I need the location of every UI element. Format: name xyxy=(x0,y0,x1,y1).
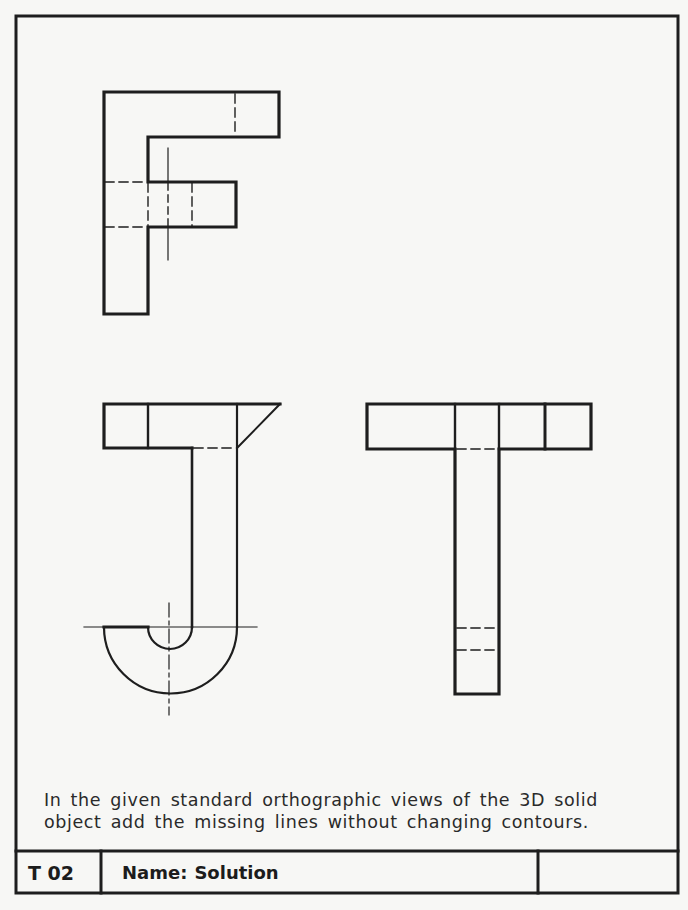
t-view xyxy=(367,404,591,694)
sheet-border xyxy=(16,16,678,893)
sheet-code: T 02 xyxy=(28,862,74,884)
j-chamfer xyxy=(237,404,280,448)
name-label: Name: xyxy=(122,862,187,883)
f-hidden-lines xyxy=(105,94,235,227)
j-view xyxy=(84,404,280,715)
j-center-lines xyxy=(84,603,257,715)
drawing-sheet xyxy=(0,0,688,910)
j-top-bar xyxy=(104,404,280,448)
title-block-extra-cell xyxy=(540,852,676,892)
name-value: Solution xyxy=(194,862,278,883)
j-inner-arc xyxy=(148,627,192,649)
instructions-text: In the given standard orthographic views… xyxy=(44,789,654,833)
name-field: Name:Solution xyxy=(122,862,279,883)
t-hidden-lines xyxy=(457,449,497,650)
instructions-line-1: In the given standard orthographic views… xyxy=(44,789,654,811)
j-outer-arc xyxy=(104,627,237,694)
f-view xyxy=(104,92,279,314)
instructions-line-2: object add the missing lines without cha… xyxy=(44,811,654,833)
